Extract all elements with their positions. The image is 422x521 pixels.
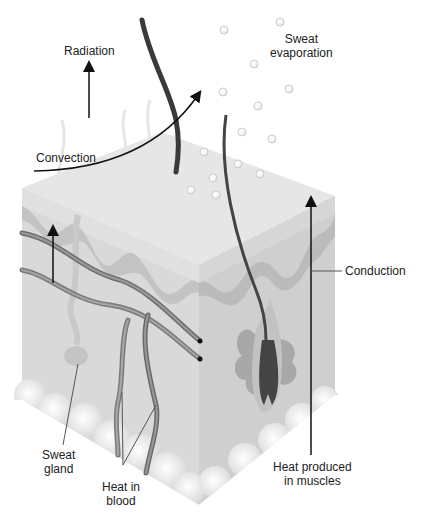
radiation-label: Radiation <box>64 44 115 58</box>
conduction-label: Conduction <box>345 264 406 278</box>
skin-diagram <box>0 0 422 521</box>
sweat-gland <box>64 346 88 366</box>
sweat-evaporation-line-2: evaporation <box>270 46 333 60</box>
heat-produced-line-2: in muscles <box>273 474 352 488</box>
sweat-evaporation-line-1: Sweat <box>270 32 333 46</box>
heat-produced-line-1: Heat produced <box>273 460 352 474</box>
sweat-gland-line-2: gland <box>42 462 75 476</box>
convection-label: Convection <box>36 151 96 165</box>
heat-in-blood-label: Heat in blood <box>102 480 140 508</box>
heat-in-blood-line-1: Heat in <box>102 480 140 494</box>
heat-in-blood-line-2: blood <box>102 494 140 508</box>
sweat-gland-line-1: Sweat <box>42 448 75 462</box>
sweat-evaporation-label: Sweat evaporation <box>270 32 333 60</box>
sweat-gland-label: Sweat gland <box>42 448 75 476</box>
heat-produced-label: Heat produced in muscles <box>273 460 352 488</box>
